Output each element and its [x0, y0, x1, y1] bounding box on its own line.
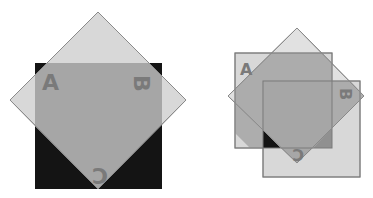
- right-label-c: C: [292, 145, 304, 164]
- left-label-a: A: [42, 70, 59, 95]
- right-label-b: B: [336, 88, 355, 100]
- left-figure: A B C: [10, 12, 186, 189]
- left-label-b: B: [129, 75, 154, 92]
- diagram-canvas: A B C A B C: [0, 0, 373, 198]
- left-label-c: C: [92, 163, 108, 188]
- right-figure: A B C: [228, 28, 364, 177]
- right-label-a: A: [240, 60, 253, 79]
